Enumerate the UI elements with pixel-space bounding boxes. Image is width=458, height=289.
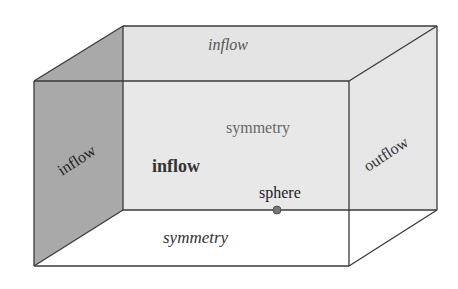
sphere-label: sphere xyxy=(259,184,301,202)
front-region xyxy=(123,81,349,210)
back-face-label: symmetry xyxy=(226,119,290,137)
boundary-box-diagram: inflow symmetry inflow inflow outflow sy… xyxy=(0,0,458,289)
front-face-label: inflow xyxy=(152,156,200,176)
top-face-label: inflow xyxy=(208,36,248,54)
sphere-icon xyxy=(273,206,281,214)
bottom-face-label: symmetry xyxy=(163,228,229,247)
